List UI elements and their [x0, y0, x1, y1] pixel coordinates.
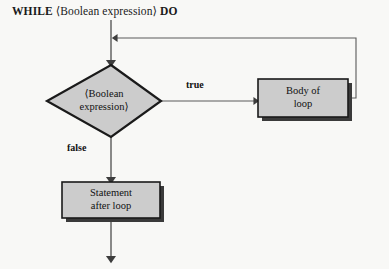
edge-label-false: false [67, 142, 86, 153]
node-statement-after-loop [62, 182, 160, 218]
flowchart-diagram: WHILE ⟨Boolean expression⟩ DO [0, 0, 389, 269]
node-body-of-loop [258, 79, 348, 117]
flowchart-canvas [0, 0, 389, 269]
node-condition-diamond [47, 65, 161, 137]
edge-label-true: true [186, 79, 204, 90]
